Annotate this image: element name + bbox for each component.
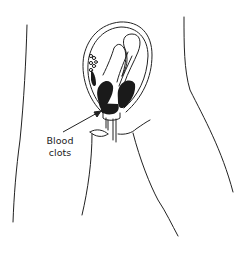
body-outline-right <box>184 17 233 192</box>
label-line-1: Blood <box>40 135 80 147</box>
uterus-illustration <box>0 0 249 257</box>
pointer-arrow <box>63 111 101 132</box>
blood-clots-label: Blood clots <box>40 135 80 159</box>
pubic-curve-left <box>90 132 108 136</box>
pubic-curve-right <box>118 120 150 134</box>
body-outline-left <box>13 25 27 222</box>
thigh-left <box>82 134 92 215</box>
label-line-2: clots <box>40 147 80 159</box>
thigh-right <box>133 133 178 236</box>
